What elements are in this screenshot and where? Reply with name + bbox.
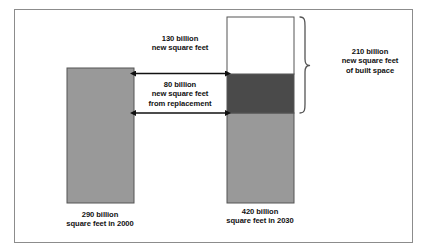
- annotation-130-line2: new square feet: [152, 43, 209, 52]
- bar-2000-caption-line2: square feet in 2000: [66, 219, 133, 228]
- bar-2030-retained: [227, 113, 294, 203]
- figure-root: 130 billionnew square feet 80 billionnew…: [0, 0, 427, 251]
- bar-2030-replacement: [227, 74, 294, 113]
- annotation-130-label: 130 billionnew square feet: [130, 34, 230, 53]
- annotation-80-line2: new square feet: [152, 89, 209, 98]
- annotation-130-line1: 130 billion: [162, 34, 199, 43]
- annotation-80-line3: from replacement: [149, 99, 212, 108]
- bar-2030-caption: 420 billionsquare feet in 2030: [205, 207, 315, 226]
- bar-2030-caption-line2: square feet in 2030: [226, 216, 293, 225]
- annotation-210-line3: of built space: [346, 66, 394, 75]
- bar-2030-net-new: [227, 17, 294, 74]
- bar-2000-caption-line1: 290 billion: [82, 210, 119, 219]
- annotation-210-line2: new square feet: [342, 56, 399, 65]
- annotation-210-label: 210 billionnew square feetof built space: [322, 47, 418, 75]
- annotation-80-line1: 80 billion: [164, 80, 196, 89]
- bar-2000-caption: 290 billionsquare feet in 2000: [45, 210, 155, 229]
- brace-210: [300, 17, 310, 113]
- bar-2030-caption-line1: 420 billion: [242, 207, 279, 216]
- bar-2000-total: [67, 68, 134, 203]
- annotation-80-label: 80 billionnew square feetfrom replacemen…: [130, 80, 230, 108]
- annotation-210-line1: 210 billion: [352, 47, 389, 56]
